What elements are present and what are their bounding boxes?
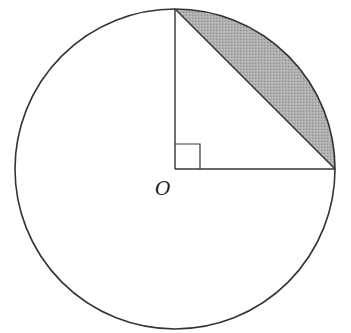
center-label: O: [155, 177, 171, 199]
right-angle-marker: [175, 144, 200, 169]
circle-diagram: O: [0, 0, 351, 333]
